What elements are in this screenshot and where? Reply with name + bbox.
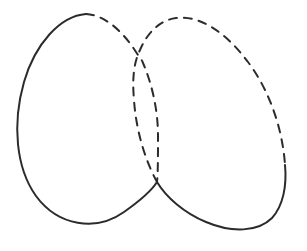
figure-container: Hand-drawn style line diagram of two int… [0,0,307,251]
ellipses-diagram [0,0,307,251]
